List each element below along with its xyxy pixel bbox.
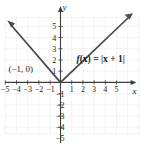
x-tick-label-3: 3	[92, 85, 96, 94]
function-equation-label: f(x) = |x + 1|	[77, 54, 125, 65]
x-tick-label-2: 2	[81, 85, 85, 94]
x-tick-label-neg5: −5	[1, 85, 10, 94]
function-arg: (x)	[80, 54, 91, 65]
y-tick-label-3: 3	[52, 45, 56, 54]
y-tick-label-neg1: −1	[56, 90, 65, 99]
x-tick-label-4: 4	[103, 85, 107, 94]
y-tick-label-neg2: −2	[56, 101, 65, 110]
x-tick-label-neg2: −2	[35, 85, 44, 94]
x-tick-label-5: 5	[115, 85, 119, 94]
y-axis-label: y	[62, 2, 67, 12]
graph-figure: −5 −4 −3 −2 −1 1 2 3 4 5 5 4 3 2 1 −1 −2…	[0, 0, 150, 145]
y-tick-label-neg5: −5	[56, 134, 65, 143]
y-tick-label-neg3: −3	[56, 112, 65, 121]
function-equals: =	[91, 54, 101, 64]
y-tick-label-2: 2	[52, 56, 56, 65]
y-tick-label-4: 4	[52, 34, 56, 43]
vertex-point-label: (−1, 0)	[9, 64, 34, 74]
y-tick-label-1: 1	[52, 67, 56, 76]
y-tick-label-5: 5	[52, 22, 56, 31]
x-tick-label-neg3: −3	[23, 85, 32, 94]
x-axis-label: x	[132, 86, 137, 96]
x-tick-label-1: 1	[70, 85, 74, 94]
coordinate-plane-svg: −5 −4 −3 −2 −1 1 2 3 4 5 5 4 3 2 1 −1 −2…	[0, 0, 150, 145]
function-body: |x + 1|	[101, 54, 125, 64]
x-tick-label-neg4: −4	[12, 85, 21, 94]
y-tick-label-neg4: −4	[56, 123, 65, 132]
x-tick-label-neg1: −1	[46, 85, 55, 94]
